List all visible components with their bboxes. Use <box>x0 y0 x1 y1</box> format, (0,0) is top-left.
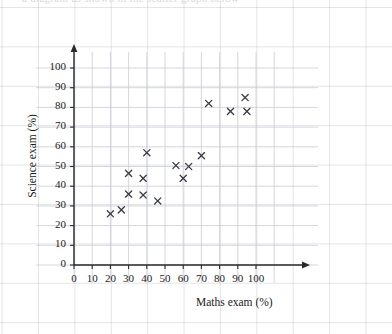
data-point-marker <box>140 192 146 198</box>
data-point-marker <box>206 100 212 106</box>
data-point-marker <box>242 94 248 100</box>
tick-marks <box>70 68 256 269</box>
y-tick-label: 100 <box>42 60 66 72</box>
data-point-marker <box>244 108 250 114</box>
y-tick-label: 10 <box>42 237 66 249</box>
y-axis-arrowhead <box>71 44 78 52</box>
x-axis-arrowhead <box>302 262 310 269</box>
data-point-marker <box>140 175 146 181</box>
data-point-marker <box>227 108 233 114</box>
y-tick-label: 30 <box>42 198 66 210</box>
data-point-marker <box>173 162 179 168</box>
data-point-marker <box>155 198 161 204</box>
y-tick-label: 90 <box>42 80 66 92</box>
y-tick-label: 40 <box>42 178 66 190</box>
y-tick-label: 20 <box>42 218 66 230</box>
y-tick-label: 50 <box>42 159 66 171</box>
y-tick-label: 0 <box>42 257 66 269</box>
y-tick-label: 80 <box>42 99 66 111</box>
x-tick-label: 100 <box>245 272 267 284</box>
x-axis-title: Maths exam (%) <box>196 296 273 308</box>
y-tick-label: 60 <box>42 139 66 151</box>
y-axis-title: Science exam (%) <box>26 98 38 214</box>
scatter-chart: Science exam (%) Maths exam (%) 01020304… <box>0 0 392 334</box>
data-point-marker <box>118 207 124 213</box>
y-tick-label: 70 <box>42 119 66 131</box>
